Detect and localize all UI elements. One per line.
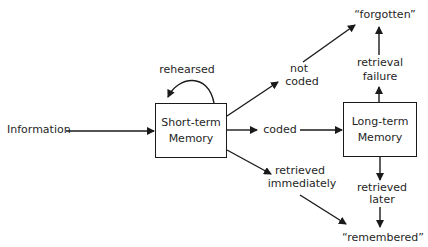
edge-label-not: not [290, 63, 308, 75]
arrow-stm-to-retrieved-immediately [227, 150, 271, 174]
edge-label-later: later [369, 194, 394, 206]
stm-label-line2: Memory [169, 131, 214, 147]
edge-label-coded-under-not: coded [285, 76, 319, 88]
stm-label-line1: Short-term [161, 115, 221, 131]
edge-label-coded: coded [263, 124, 297, 136]
edge-label-retrieval: retrieval [357, 57, 403, 69]
arrow-rehearsal-loop [168, 80, 214, 103]
edge-label-immediately: immediately [268, 178, 337, 190]
ltm-label-line1: Long-term [352, 114, 409, 130]
edge-label-rehearsed: rehearsed [159, 64, 215, 76]
arrow-stm-to-not-coded [227, 82, 278, 116]
outcome-forgotten: “forgotten” [354, 9, 415, 21]
edge-label-failure: failure [363, 71, 398, 83]
ltm-label-line2: Memory [358, 130, 403, 146]
node-short-term-memory: Short-term Memory [155, 103, 227, 158]
arrow-retrieved-immediately-to-remembered [300, 195, 346, 224]
edge-label-retrieved: retrieved [275, 165, 325, 177]
node-long-term-memory: Long-term Memory [343, 102, 417, 157]
input-label-information: Information [7, 124, 71, 136]
outcome-remembered: “remembered” [342, 232, 424, 244]
arrow-not-coded-to-forgotten [303, 25, 355, 62]
